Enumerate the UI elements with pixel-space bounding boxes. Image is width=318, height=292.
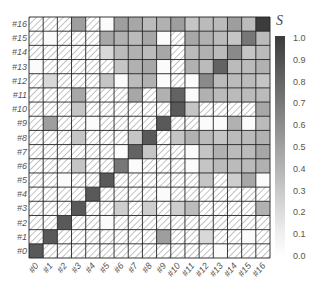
y-tick-label: #10: [12, 104, 27, 114]
heatmap-cell-hatched: [185, 244, 199, 258]
heatmap-chart: #0#1#2#3#4#5#6#7#8#9#10#11#12#13#14#15#1…: [0, 0, 318, 292]
y-tick-label: #12: [12, 76, 27, 86]
heatmap-cell-hatched: [171, 215, 185, 229]
heatmap-cell-hatched: [29, 74, 43, 88]
heatmap-cell: [227, 130, 241, 144]
heatmap-cell-hatched: [86, 45, 100, 59]
heatmap-cell: [128, 31, 142, 45]
heatmap-cell: [213, 145, 227, 159]
heatmap-cell: [100, 215, 114, 229]
heatmap-cell: [72, 201, 86, 215]
heatmap-cell: [213, 130, 227, 144]
y-tick-label: #9: [17, 118, 27, 128]
heatmap-cell-hatched: [171, 45, 185, 59]
heatmap-cell-hatched: [256, 244, 270, 258]
heatmap-cell: [100, 31, 114, 45]
heatmap-cell: [199, 159, 213, 173]
heatmap-cell: [157, 45, 171, 59]
heatmap-cell: [242, 45, 256, 59]
heatmap-cell: [100, 45, 114, 59]
heatmap-cell: [185, 145, 199, 159]
heatmap-cell-hatched: [157, 130, 171, 144]
heatmap-cell-hatched: [100, 230, 114, 244]
x-tick-label: #14: [222, 261, 239, 279]
heatmap-cell-hatched: [199, 215, 213, 229]
heatmap-cell-hatched: [43, 201, 57, 215]
y-tick-label: #15: [12, 33, 28, 43]
heatmap-cell-hatched: [57, 88, 71, 102]
heatmap-cell: [72, 159, 86, 173]
heatmap-cell: [157, 230, 171, 244]
heatmap-cell: [242, 159, 256, 173]
y-tick-label: #14: [12, 47, 27, 57]
heatmap-cell: [199, 130, 213, 144]
heatmap-cell-hatched: [100, 187, 114, 201]
heatmap-cell: [157, 17, 171, 31]
heatmap-cell: [242, 116, 256, 130]
heatmap-cell-hatched: [100, 159, 114, 173]
heatmap-cell-hatched: [199, 201, 213, 215]
heatmap-cell-hatched: [114, 244, 128, 258]
heatmap-cell-hatched: [29, 215, 43, 229]
heatmap-cell: [227, 116, 241, 130]
y-tick-label: #8: [17, 133, 27, 143]
colorbar-ticks: 1.00.90.80.70.60.50.40.30.20.10.0: [293, 33, 306, 261]
x-tick-label: #4: [83, 261, 97, 275]
y-tick-label: #3: [17, 203, 27, 213]
heatmap-cell-hatched: [100, 102, 114, 116]
heatmap-cell: [227, 31, 241, 45]
colorbar-gradient: [275, 36, 285, 256]
heatmap-cell: [199, 74, 213, 88]
heatmap-cell: [227, 145, 241, 159]
heatmap-cell-hatched: [57, 145, 71, 159]
heatmap-cell: [100, 74, 114, 88]
heatmap-cell-hatched: [57, 159, 71, 173]
heatmap-cell: [256, 31, 270, 45]
heatmap-cell: [157, 60, 171, 74]
heatmap-cell-hatched: [199, 244, 213, 258]
heatmap-cell-hatched: [199, 187, 213, 201]
heatmap-cell: [171, 88, 185, 102]
x-tick-label: #8: [140, 261, 154, 275]
heatmap-cell: [227, 173, 241, 187]
heatmap-cell-hatched: [142, 159, 156, 173]
heatmap-cell-hatched: [213, 215, 227, 229]
heatmap-cell: [227, 74, 241, 88]
colorbar-tick-label: 0.6: [293, 120, 306, 130]
heatmap-cell-hatched: [114, 230, 128, 244]
heatmap-cell: [213, 74, 227, 88]
heatmap-cell-hatched: [100, 130, 114, 144]
heatmap-cell-hatched: [43, 145, 57, 159]
heatmap-cell: [142, 17, 156, 31]
heatmap-cell: [142, 45, 156, 59]
heatmap-cell: [171, 130, 185, 144]
colorbar-tick-label: 0.4: [293, 164, 306, 174]
heatmap-cell: [114, 145, 128, 159]
heatmap-cell-hatched: [72, 31, 86, 45]
heatmap-cell-hatched: [29, 230, 43, 244]
heatmap-cell-hatched: [57, 45, 71, 59]
x-tick-label: #0: [27, 261, 41, 275]
heatmap-cell: [242, 17, 256, 31]
heatmap-cell: [128, 145, 142, 159]
heatmap-cell-hatched: [242, 187, 256, 201]
heatmap-cell-hatched: [43, 159, 57, 173]
heatmap-cell-hatched: [142, 230, 156, 244]
heatmap-cell: [185, 74, 199, 88]
heatmap-cell-hatched: [171, 60, 185, 74]
colorbar-label: S: [276, 13, 283, 28]
heatmap-cell-hatched: [185, 215, 199, 229]
heatmap-cell-hatched: [86, 17, 100, 31]
colorbar-tick-label: 0.3: [293, 186, 306, 196]
heatmap-cell-hatched: [185, 187, 199, 201]
colorbar-tick-label: 1.0: [293, 33, 306, 43]
heatmap-cell: [185, 130, 199, 144]
heatmap-cell: [57, 215, 71, 229]
heatmap-cell-hatched: [128, 244, 142, 258]
heatmap-cell-hatched: [142, 88, 156, 102]
heatmap-cell: [185, 201, 199, 215]
heatmap-cell-hatched: [227, 215, 241, 229]
heatmap-cell-hatched: [29, 88, 43, 102]
heatmap-cell: [185, 88, 199, 102]
heatmap-cell: [128, 159, 142, 173]
